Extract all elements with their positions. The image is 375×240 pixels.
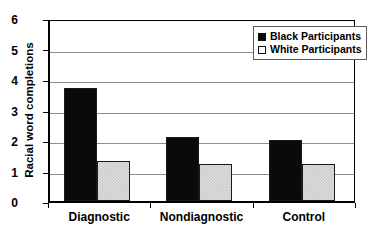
legend: Black Participants White Participants xyxy=(253,26,367,60)
legend-swatch-white-square xyxy=(258,46,266,54)
x-axis-tick-mark xyxy=(355,203,356,208)
legend-swatch-black-square xyxy=(258,33,266,41)
legend-label: White Participants xyxy=(270,44,362,55)
bar xyxy=(64,88,97,201)
x-axis-tick-mark xyxy=(48,203,49,208)
y-axis-tick-label: 3 xyxy=(0,106,18,118)
bar xyxy=(199,164,232,201)
y-axis-tick-label: 1 xyxy=(0,167,18,179)
bar-group xyxy=(50,21,152,201)
y-axis-tick-label: 5 xyxy=(0,45,18,57)
legend-item-black-participants: Black Participants xyxy=(258,30,362,43)
bar-group xyxy=(152,21,254,201)
bar xyxy=(166,137,199,201)
x-axis-tick-mark xyxy=(150,203,151,208)
x-axis-category-label: Diagnostic xyxy=(48,210,150,224)
bar xyxy=(302,164,335,201)
y-axis-tick-label: 4 xyxy=(0,75,18,87)
bar-chart: Racial word completions 0123456 Diagnost… xyxy=(0,0,375,240)
y-axis-tick-label: 2 xyxy=(0,136,18,148)
x-axis-tick-mark xyxy=(253,203,254,208)
bar xyxy=(97,161,130,201)
y-axis-tick-label: 0 xyxy=(0,197,18,209)
y-axis-tick-label: 6 xyxy=(0,14,18,26)
x-axis-category-label: Nondiagnostic xyxy=(150,210,252,224)
x-axis-category-label: Control xyxy=(253,210,355,224)
legend-label: Black Participants xyxy=(270,31,361,42)
legend-item-white-participants: White Participants xyxy=(258,43,362,56)
bar xyxy=(269,140,302,201)
y-axis-title: Racial word completions xyxy=(23,15,35,205)
